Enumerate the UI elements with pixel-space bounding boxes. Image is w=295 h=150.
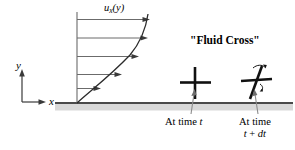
velocity-arrow: [77, 35, 148, 40]
caption-time-t-text: At time: [165, 116, 199, 127]
velocity-profile: [77, 12, 150, 103]
shear-flow-diagram: ux(y) y x "Fluid Cross" At time t At tim…: [0, 0, 295, 150]
velocity-arrow-group: [77, 17, 150, 91]
velocity-profile-curve: [77, 14, 148, 103]
rotation-arrowhead-lower: [260, 88, 263, 91]
x-axis-label: x: [49, 96, 54, 107]
fluid-cross-title: "Fluid Cross": [190, 35, 260, 47]
caption-time-t-variable: t: [199, 116, 202, 127]
caption-time-t-plus-dt-line2: t + dt: [239, 129, 271, 140]
velocity-arrow: [77, 17, 150, 22]
caption-time-t: At time t: [165, 117, 202, 128]
caption-dt-plus: +: [247, 128, 258, 139]
velocity-arrow: [77, 72, 122, 77]
caption-time-t-plus-dt: At timet + dt: [239, 117, 271, 139]
caption-time-t-plus-dt-line1: At time: [239, 116, 271, 127]
y-axis-label: y: [16, 60, 21, 71]
coordinate-axes: [19, 69, 46, 105]
velocity-argument: (y): [113, 2, 125, 13]
x-axis-arrowhead: [39, 99, 47, 104]
caption-dt-dt: dt: [258, 128, 266, 139]
velocity-arrow: [77, 86, 101, 91]
cross-horizontal-bar-sheared: [241, 79, 272, 81]
velocity-profile-label: ux(y): [104, 3, 124, 15]
